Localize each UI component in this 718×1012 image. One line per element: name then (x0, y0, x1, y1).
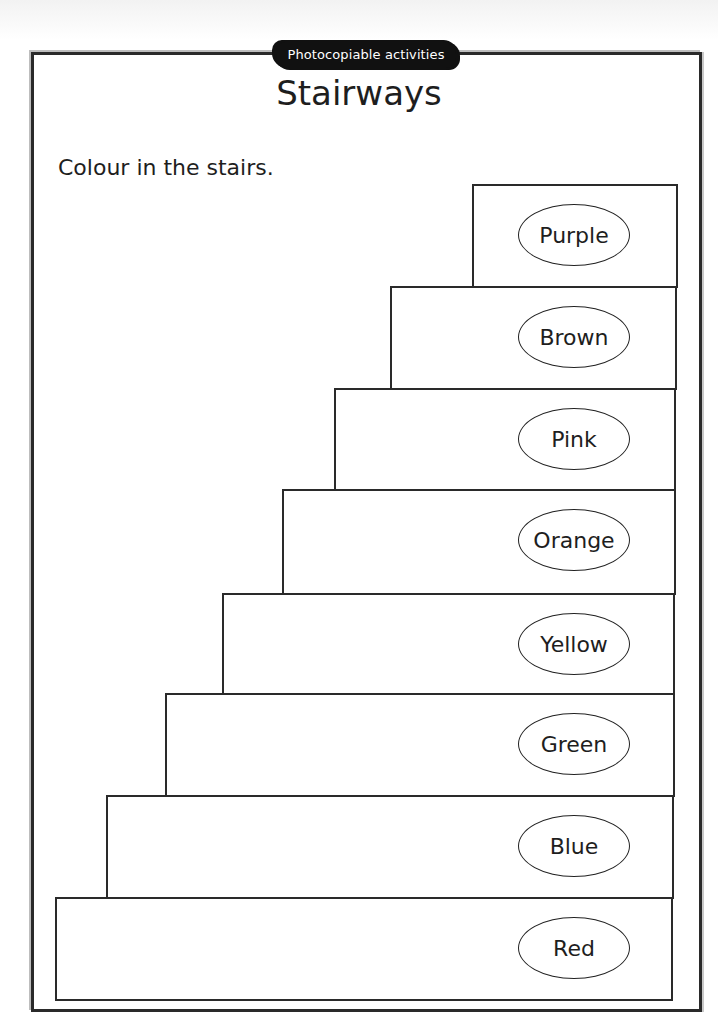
page-title: Stairways (0, 73, 718, 113)
colour-label-oval: Green (518, 713, 630, 775)
stair-yellow[interactable]: Yellow (222, 593, 675, 695)
stair-purple[interactable]: Purple (472, 184, 678, 288)
colour-label-oval: Red (518, 917, 630, 979)
photocopiable-badge: Photocopiable activities (276, 42, 456, 68)
colour-label-oval: Orange (518, 509, 630, 571)
instruction-text: Colour in the stairs. (58, 155, 274, 180)
stair-green[interactable]: Green (165, 693, 675, 797)
stair-orange[interactable]: Orange (282, 489, 676, 595)
colour-label-oval: Pink (518, 408, 630, 470)
page-shade (0, 0, 718, 40)
stair-brown[interactable]: Brown (390, 286, 677, 390)
stair-blue[interactable]: Blue (106, 795, 674, 899)
colour-label-oval: Brown (518, 306, 630, 368)
stair-pink[interactable]: Pink (334, 388, 676, 491)
stair-red[interactable]: Red (55, 897, 673, 1001)
colour-label-oval: Blue (518, 815, 630, 877)
colour-label-oval: Yellow (518, 613, 630, 675)
colour-label-oval: Purple (518, 204, 630, 266)
